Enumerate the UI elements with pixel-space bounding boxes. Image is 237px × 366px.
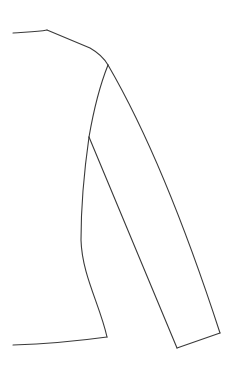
hem-line: [13, 337, 107, 345]
sleeve-inner-line: [89, 137, 177, 348]
shoulder-line: [47, 30, 108, 65]
sleeve-outer-line: [108, 65, 220, 333]
armhole-line: [89, 65, 108, 137]
side-seam-line: [81, 137, 107, 337]
garment-flat-sketch: [0, 0, 237, 366]
cuff-line: [177, 333, 220, 348]
sketch-canvas: [0, 0, 237, 366]
neckline-line: [13, 30, 47, 33]
